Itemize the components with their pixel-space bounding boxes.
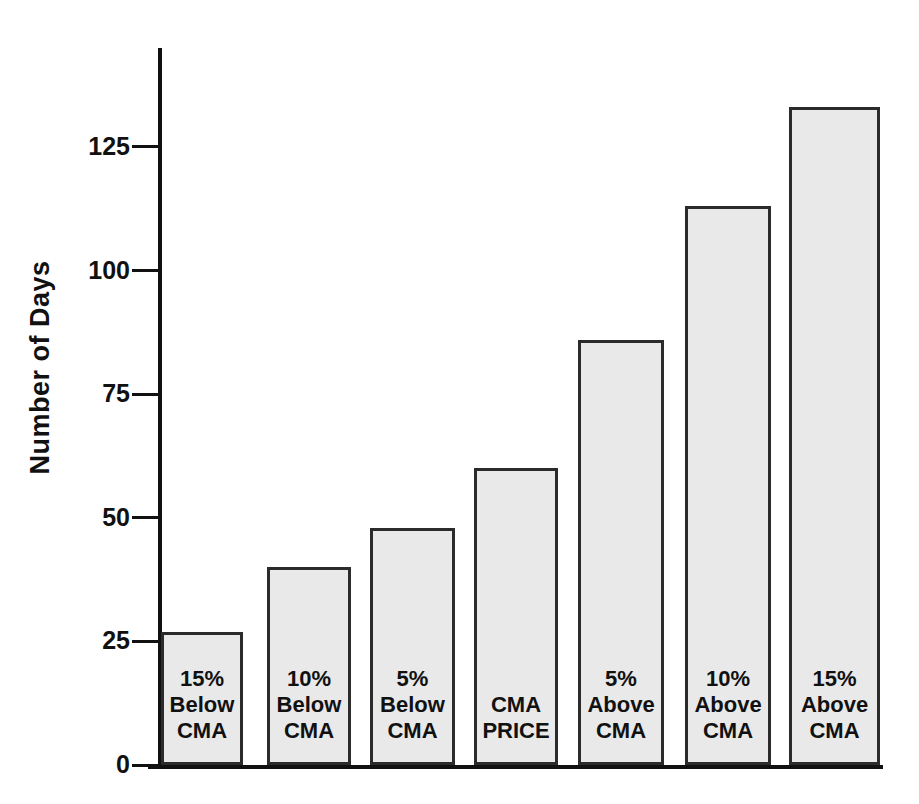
y-axis-tick	[132, 269, 158, 272]
bar-series: 15% Below CMA10% Below CMA5% Below CMACM…	[158, 48, 883, 765]
y-axis-tick	[132, 393, 158, 396]
bar-category-label: 15% Above CMA	[801, 666, 868, 762]
bar[interactable]: 15% Above CMA	[789, 107, 880, 765]
bar-category-label: 10% Below CMA	[277, 666, 342, 762]
y-axis-tick-label: 25	[102, 628, 130, 653]
bar[interactable]: 15% Below CMA	[161, 632, 243, 766]
y-axis-tick-label: 100	[88, 258, 130, 283]
plot-area: 0255075100125 15% Below CMA10% Below CMA…	[158, 48, 883, 765]
y-axis-tick-labels: 0255075100125	[30, 48, 130, 765]
x-axis-line	[148, 765, 883, 769]
y-axis-tick	[132, 764, 158, 767]
chart-page: Number of Days 0255075100125 15% Below C…	[0, 0, 919, 804]
y-axis-tick	[132, 145, 158, 148]
bar-category-label: 5% Above CMA	[587, 666, 654, 762]
bar[interactable]: 5% Above CMA	[578, 340, 664, 765]
bar-category-label: CMA PRICE	[482, 692, 549, 762]
y-axis-tick-label: 125	[88, 134, 130, 159]
y-axis-tick	[132, 640, 158, 643]
bar-category-label: 15% Below CMA	[170, 666, 235, 762]
bar[interactable]: 10% Above CMA	[685, 206, 771, 765]
bar[interactable]: 10% Below CMA	[267, 567, 351, 765]
y-axis-tick-label: 0	[116, 752, 130, 777]
y-axis-tick	[132, 516, 158, 519]
bar-category-label: 5% Below CMA	[380, 666, 445, 762]
y-axis-tick-label: 75	[102, 381, 130, 406]
bar[interactable]: 5% Below CMA	[370, 528, 455, 765]
bar-category-label: 10% Above CMA	[694, 666, 761, 762]
y-axis-tick-label: 50	[102, 505, 130, 530]
bar[interactable]: CMA PRICE	[474, 468, 558, 765]
